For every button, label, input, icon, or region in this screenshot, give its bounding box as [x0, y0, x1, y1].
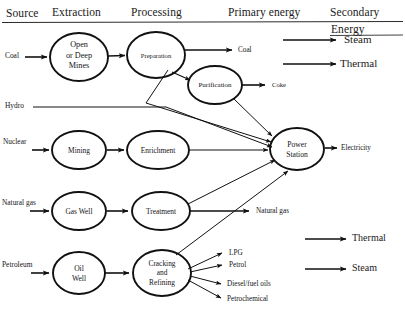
- arrow-cracking-to-diesel: [190, 276, 221, 284]
- node-label-mining: Mining: [52, 146, 106, 155]
- node-label-gas-well: Gas Well: [52, 207, 106, 216]
- secondary-output-steam: Steam: [344, 33, 372, 45]
- source-label-coal: Coal: [5, 51, 19, 60]
- source-label-nuclear: Nuclear: [3, 137, 26, 146]
- energy-flow-diagram: Source Extraction Processing Primary ene…: [0, 0, 405, 312]
- node-label-line: Power: [270, 140, 324, 150]
- secondary-output-thermal: Thermal: [340, 57, 377, 69]
- node-label-line: and: [133, 268, 191, 277]
- node-label-line: Well: [53, 274, 105, 284]
- node-label-line: Oil: [53, 264, 105, 274]
- output-label-electricity: Electricity: [341, 144, 371, 152]
- node-label-preparation: Preparation: [127, 51, 185, 60]
- node-label-line: or Deep: [50, 51, 108, 62]
- line-treatment-to-power-station: [188, 160, 275, 204]
- arrow-mines-to-preparation: [108, 56, 125, 57]
- source-label-petroleum: Petroleum: [2, 260, 32, 269]
- node-label-open-or-deep-mines: Open or Deep Mines: [50, 40, 108, 72]
- legend-label-thermal: Thermal: [352, 232, 386, 243]
- node-label-enrichment: Enrichment: [127, 146, 189, 155]
- output-label-diesel-fuel-oils: Diesel/fuel oils: [227, 280, 271, 288]
- output-label-lpg: LPG: [229, 249, 243, 257]
- header-source: Source: [6, 7, 39, 19]
- node-label-power-station: Power Station: [270, 140, 324, 159]
- output-label-natural-gas: Natural gas: [256, 207, 289, 215]
- source-label-natural-gas: Natural gas: [2, 198, 36, 207]
- node-label-oil-well: Oil Well: [53, 264, 105, 283]
- output-label-petrochemical: Petrochemical: [227, 295, 268, 303]
- node-label-line: Station: [270, 150, 324, 160]
- source-label-hydro: Hydro: [5, 101, 24, 110]
- output-label-petrol: Petrol: [229, 261, 246, 269]
- line-purification-to-power-station: [234, 99, 272, 136]
- node-label-line: Open: [50, 40, 108, 51]
- node-label-line: Refining: [133, 278, 191, 287]
- node-label-treatment: Treatment: [132, 207, 190, 216]
- node-label-line: Cracking: [133, 259, 191, 268]
- legend-label-steam: Steam: [352, 262, 377, 273]
- arrow-preparation-to-purification: [172, 72, 190, 80]
- node-label-line: Mines: [50, 61, 108, 72]
- output-label-coke: Coke: [272, 81, 286, 88]
- line-hydro-to-power-station: [33, 107, 272, 147]
- header-extraction: Extraction: [52, 6, 101, 18]
- header-processing: Processing: [131, 6, 182, 18]
- header-secondary: Secondary: [330, 6, 379, 18]
- node-label-cracking-and-refining: Cracking and Refining: [133, 259, 191, 287]
- node-label-purification: Purification: [186, 81, 244, 90]
- header-primary-energy: Primary energy: [228, 6, 300, 18]
- output-label-coal: Coal: [238, 46, 252, 54]
